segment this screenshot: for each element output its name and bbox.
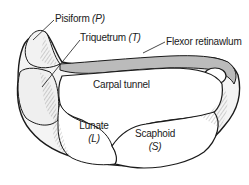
scaphoid-abbr: (S) — [149, 141, 162, 152]
pisiform-abbr: (P) — [92, 13, 105, 24]
label-lunate: Lunate (L) — [78, 121, 110, 144]
lunate-abbr: (L) — [88, 133, 100, 144]
lunate-name: Lunate — [78, 121, 110, 131]
triquetrum-abbr: (T) — [129, 32, 141, 43]
scaphoid-name: Scaphoid — [133, 129, 177, 139]
flexor-retinaculum-name: Flexor retinawlum — [166, 36, 242, 47]
triquetrum-name: Triquetrum — [80, 32, 126, 43]
label-pisiform: Pisiform (P) — [55, 14, 105, 24]
carpal-tunnel-illustration — [0, 0, 249, 185]
label-scaphoid: Scaphoid (S) — [133, 129, 177, 152]
label-triquetrum: Triquetrum (T) — [80, 33, 141, 43]
label-carpal-tunnel: Carpal tunnel — [93, 80, 150, 90]
carpal-tunnel-name: Carpal tunnel — [93, 79, 150, 90]
label-flexor-retinaculum: Flexor retinawlum — [166, 37, 242, 47]
flexor-leader — [143, 42, 165, 53]
pisiform-name: Pisiform — [55, 13, 90, 24]
